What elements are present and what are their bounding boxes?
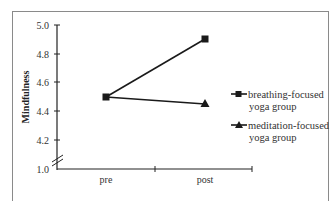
legend-label: breathing-focused <box>248 89 325 100</box>
series-meditation <box>106 97 210 107</box>
legend-label: yoga group <box>249 132 297 143</box>
legend-label: meditation-focused <box>248 120 330 131</box>
legend-label: yoga group <box>249 101 297 112</box>
y-tick-label: 4.6 <box>37 77 50 88</box>
legend-item-meditation: meditation-focused yoga group <box>231 120 330 144</box>
square-marker-icon <box>202 36 209 43</box>
y-tick-label: 4.2 <box>37 135 50 146</box>
square-marker-icon <box>236 91 242 97</box>
x-tick-label-pre: pre <box>100 174 113 185</box>
legend: breathing-focused yoga group meditation-… <box>231 89 330 144</box>
x-tick-label-post: post <box>197 174 214 185</box>
y-tick-label: 4.4 <box>37 106 50 117</box>
line-chart: 5.0 4.8 4.6 4.4 4.2 1.0 Mindfulness pre … <box>0 0 335 201</box>
series-breathing <box>103 36 209 101</box>
y-tick-label: 5.0 <box>37 20 50 31</box>
legend-item-breathing: breathing-focused yoga group <box>231 89 325 113</box>
y-tick-label: 4.8 <box>37 49 50 60</box>
y-tick-label: 1.0 <box>37 164 50 175</box>
y-axis-title: Mindfulness <box>20 70 31 123</box>
